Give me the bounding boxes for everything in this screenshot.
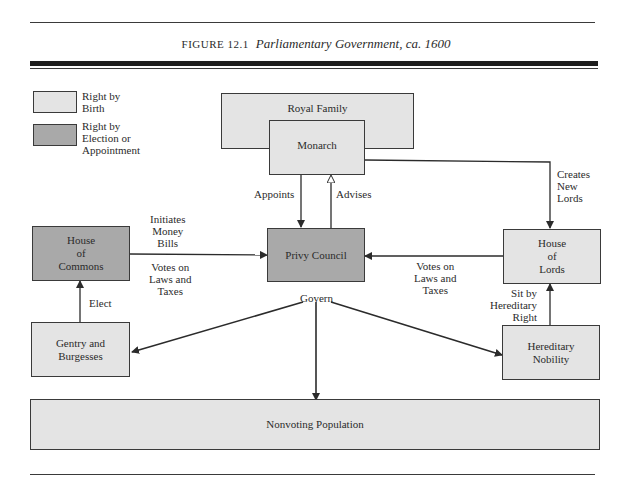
label-line: Taxes bbox=[149, 285, 191, 297]
node-label: Burgesses bbox=[58, 350, 102, 363]
edge-commons-to-council bbox=[130, 254, 267, 255]
label-line: Hereditary bbox=[490, 299, 537, 311]
node-label: Nobility bbox=[533, 353, 570, 366]
label-line: Votes on bbox=[414, 260, 456, 272]
node-label: of bbox=[547, 250, 556, 263]
label-elect: Elect bbox=[89, 297, 112, 309]
label-line: Laws and bbox=[149, 273, 191, 285]
label-line: Creates bbox=[557, 168, 590, 180]
node-label: Commons bbox=[58, 260, 103, 273]
edge-govern-gentry bbox=[132, 302, 303, 352]
node-label: Nonvoting Population bbox=[266, 418, 363, 431]
label-line: Taxes bbox=[414, 284, 456, 296]
label-line: Bills bbox=[150, 237, 185, 249]
label-line: Lords bbox=[557, 192, 590, 204]
node-privy-council: Privy Council bbox=[267, 228, 365, 282]
node-label: Privy Council bbox=[285, 249, 346, 262]
label-appoints: Appoints bbox=[254, 188, 294, 200]
node-label: House bbox=[538, 237, 566, 250]
node-gentry-and-burgesses: Gentry and Burgesses bbox=[31, 322, 130, 377]
edge-govern-nobility bbox=[331, 302, 502, 355]
node-label: of bbox=[76, 247, 85, 260]
label-creates-new-lords: Creates New Lords bbox=[557, 168, 590, 204]
node-label: Hereditary bbox=[527, 340, 574, 353]
node-label: Gentry and bbox=[56, 337, 105, 350]
node-monarch: Monarch bbox=[269, 120, 365, 175]
label-commons-votes: Votes on Laws and Taxes bbox=[149, 261, 191, 297]
node-hereditary-nobility: Hereditary Nobility bbox=[502, 325, 600, 380]
label-line: Initiates bbox=[150, 213, 185, 225]
node-label: Royal Family bbox=[287, 102, 347, 115]
node-house-of-lords: House of Lords bbox=[503, 229, 601, 284]
label-line: Laws and bbox=[414, 272, 456, 284]
label-sit-by-hereditary-right: Sit by Hereditary Right bbox=[490, 287, 537, 323]
edge-creates-new-lords bbox=[365, 160, 550, 228]
label-govern: Govern bbox=[300, 292, 333, 304]
label-line: Sit by bbox=[490, 287, 537, 299]
node-nonvoting-population: Nonvoting Population bbox=[30, 399, 600, 450]
node-label: Lords bbox=[539, 263, 565, 276]
label-advises: Advises bbox=[336, 188, 371, 200]
label-line: New bbox=[557, 180, 590, 192]
label-line: Right bbox=[490, 311, 537, 323]
label-lords-votes: Votes on Laws and Taxes bbox=[414, 260, 456, 296]
node-label: House bbox=[67, 234, 95, 247]
label-line: Money bbox=[150, 225, 185, 237]
label-line: Votes on bbox=[149, 261, 191, 273]
node-house-of-commons: House of Commons bbox=[32, 226, 130, 281]
label-initiates-money-bills: Initiates Money Bills bbox=[150, 213, 185, 249]
node-label: Monarch bbox=[297, 139, 337, 152]
